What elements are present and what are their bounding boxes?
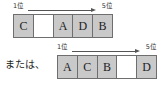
right-arrow-icon [72, 49, 140, 54]
ranking-arrangement-figure: 1位 5位 C A D B または、 1位 5位 A [0, 0, 167, 86]
first-ordering: 1位 5位 C A D B [13, 3, 113, 38]
arrow-head [91, 8, 96, 12]
rank-scale-second: 1位 5位 [57, 44, 157, 55]
arrow-head [135, 49, 140, 53]
arrow-shaft [72, 51, 136, 52]
rank-cell [117, 56, 137, 78]
rank-scale-first: 1位 5位 [13, 3, 113, 14]
rank-cell-row: A C B D [57, 55, 157, 79]
rank-cell: A [54, 15, 74, 37]
right-arrow-icon [28, 8, 96, 13]
rank-cell: A [58, 56, 78, 78]
rank-cell: B [93, 15, 112, 37]
second-ordering: 1位 5位 A C B D [57, 44, 157, 79]
rank-cell: C [78, 56, 98, 78]
rank-cell: C [14, 15, 34, 37]
rank-scale-start-label: 1位 [13, 2, 24, 11]
rank-cell [34, 15, 54, 37]
rank-scale-end-label: 5位 [102, 2, 113, 11]
rank-cell: B [98, 56, 118, 78]
connector-text: または、 [5, 58, 45, 71]
arrow-shaft [28, 10, 92, 11]
rank-cell: D [137, 56, 156, 78]
rank-cell-row: C A D B [13, 14, 113, 38]
rank-scale-start-label: 1位 [57, 43, 68, 52]
rank-cell: D [73, 15, 93, 37]
rank-scale-end-label: 5位 [146, 43, 157, 52]
